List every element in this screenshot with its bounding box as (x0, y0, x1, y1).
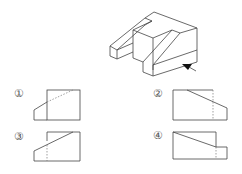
iso-left-block-edge (117, 43, 133, 50)
option-2-drawing[interactable] (173, 90, 227, 120)
option-4-drawing[interactable] (173, 132, 227, 159)
iso-center-bottom (133, 58, 143, 62)
iso-left-block-bottom (117, 52, 133, 59)
option-3-label[interactable]: ③ (14, 131, 24, 142)
option-3-drawing[interactable] (34, 132, 80, 161)
iso-right-top (180, 28, 197, 33)
iso-right-slope-top (172, 30, 180, 33)
option-4-label[interactable]: ④ (153, 130, 163, 141)
iso-center-top-right (153, 30, 172, 38)
drawing-canvas (0, 0, 242, 174)
view-direction-arrow-icon (182, 64, 196, 71)
option-1-label[interactable]: ① (14, 88, 24, 99)
iso-right-low-block (143, 62, 153, 76)
option-2-label[interactable]: ② (153, 88, 163, 99)
iso-right-slope-left (143, 30, 172, 62)
option-1-drawing[interactable] (34, 90, 80, 120)
isometric-figure (110, 12, 197, 76)
